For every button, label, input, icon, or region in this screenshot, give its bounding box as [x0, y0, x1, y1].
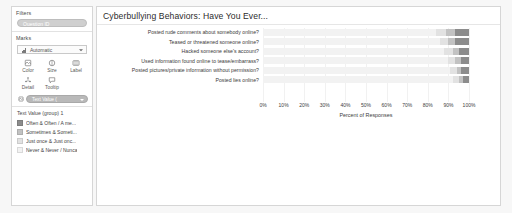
bar-segment[interactable] [461, 57, 469, 64]
bar-row-label: Posted rude comments about somebody onli… [97, 29, 263, 35]
marks-buttons-grid: Color Size Label [12, 57, 92, 94]
marks-button-label[interactable]: Label [64, 58, 88, 73]
bar-track [263, 48, 469, 55]
bar-track [263, 76, 469, 83]
bar-segment[interactable] [461, 67, 469, 74]
marks-button-label: Label [70, 68, 82, 73]
bar-segment[interactable] [263, 57, 448, 64]
mark-type-dropdown[interactable]: Automatic [17, 45, 87, 54]
color-icon [23, 58, 34, 67]
color-legend-title: Text Value (group) 1 [12, 107, 92, 118]
bar-track [263, 57, 469, 64]
legend-item[interactable]: Often & Often / A me... [12, 118, 92, 127]
x-axis-tick-label: 80% [423, 102, 433, 108]
bar-row-label: Used information found online to tease/e… [97, 58, 263, 64]
mark-type-value: Automatic [30, 47, 52, 53]
x-axis-title: Percent of Responses [263, 112, 469, 118]
legend-item[interactable]: Never & Never / Nunca [12, 145, 92, 154]
tableau-worksheet: Filters Question ID Marks Automatic Colo… [0, 0, 512, 213]
bar-segment[interactable] [263, 29, 436, 36]
marks-button-label: Size [47, 68, 56, 73]
legend-item-label: Just once & Just onc... [26, 138, 76, 144]
bar-segment[interactable] [440, 38, 448, 45]
bar-row-label: Hacked someone else's account? [97, 48, 263, 54]
legend-swatch [17, 129, 23, 135]
x-axis-tick-label: 30% [320, 102, 330, 108]
x-axis-tick-label: 90% [443, 102, 453, 108]
label-icon [71, 58, 82, 67]
x-axis-tick-label: 40% [340, 102, 350, 108]
x-axis-tick-label: 100% [463, 102, 476, 108]
x-axis-tick-label: 10% [279, 102, 289, 108]
x-axis-tick-label: 50% [361, 102, 371, 108]
encoding-pill-label: Text Value ( [32, 97, 57, 102]
viz-pane: Cyberbullying Behaviors: Have You Ever..… [96, 6, 501, 206]
bar-track [263, 38, 469, 45]
bar-chart-icon [20, 46, 28, 53]
bar-row-label: Posted pictures/private information with… [97, 67, 263, 73]
x-axis-tick-label: 0% [259, 102, 266, 108]
marks-button-label: Detail [22, 85, 34, 90]
bar-segment[interactable] [263, 76, 453, 83]
bar-segment[interactable] [263, 48, 444, 55]
bar-segment[interactable] [263, 67, 450, 74]
legend-item-label: Never & Never / Nunca [26, 147, 77, 153]
marks-button-size[interactable]: Size [40, 58, 64, 73]
marks-button-label: Color [22, 68, 33, 73]
worksheet-sidebar: Filters Question ID Marks Automatic Colo… [11, 6, 93, 206]
marks-button-color[interactable]: Color [16, 58, 40, 73]
legend-item[interactable]: Just once & Just onc... [12, 136, 92, 145]
bar-row: Posted rude comments about somebody onli… [97, 28, 500, 36]
bar-segment[interactable] [446, 29, 454, 36]
legend-swatch [17, 120, 23, 126]
chevron-down-icon [79, 49, 83, 51]
title-divider [97, 24, 500, 25]
marks-encoding-row: Text Value ( [12, 94, 92, 106]
bar-segment[interactable] [459, 48, 469, 55]
filters-shelf-title: Filters [12, 7, 92, 18]
chevron-down-icon [80, 99, 84, 101]
bar-track [263, 67, 469, 74]
bar-row-label: Posted lies online? [97, 77, 263, 83]
x-axis-tick-label: 20% [299, 102, 309, 108]
bar-rows: Posted rude comments about somebody onli… [97, 28, 500, 84]
legend-item-label: Sometimes & Someti... [26, 129, 77, 135]
tooltip-icon [47, 75, 58, 84]
legend-swatch [17, 138, 23, 144]
bar-segment[interactable] [463, 76, 469, 83]
bar-row: Hacked someone else's account? [97, 47, 500, 55]
bar-segment[interactable] [436, 29, 446, 36]
bar-segment[interactable] [455, 29, 469, 36]
marks-card-title: Marks [12, 32, 92, 43]
filter-pill-question-id[interactable]: Question ID [17, 19, 87, 27]
bar-row: Teased or threatened someone online? [97, 38, 500, 46]
encoding-pill-text-value[interactable]: Text Value ( [26, 95, 88, 103]
chart-title: Cyberbullying Behaviors: Have You Ever..… [97, 7, 500, 21]
bar-row: Posted lies online? [97, 76, 500, 84]
bar-row-label: Teased or threatened someone online? [97, 39, 263, 45]
legend-swatch [17, 147, 23, 153]
x-axis-tick-label: 60% [382, 102, 392, 108]
x-axis-ticks: 0%10%20%30%40%50%60%70%80%90%100% [263, 102, 469, 111]
plot-area: Posted rude comments about somebody onli… [97, 28, 500, 102]
bar-segment[interactable] [455, 38, 469, 45]
bar-row: Used information found online to tease/e… [97, 57, 500, 65]
legend-item-label: Often & Often / A me... [26, 120, 76, 126]
detail-icon [23, 75, 34, 84]
marks-button-label: Tooltip [45, 85, 59, 90]
color-encoding-icon [17, 96, 24, 103]
bar-segment[interactable] [263, 38, 440, 45]
marks-button-detail[interactable]: Detail [16, 75, 40, 90]
marks-button-tooltip[interactable]: Tooltip [40, 75, 64, 90]
x-axis-tick-label: 70% [402, 102, 412, 108]
bar-segment[interactable] [444, 48, 452, 55]
bar-row: Posted pictures/private information with… [97, 66, 500, 74]
size-icon [47, 58, 58, 67]
bar-track [263, 29, 469, 36]
legend-item[interactable]: Sometimes & Someti... [12, 127, 92, 136]
